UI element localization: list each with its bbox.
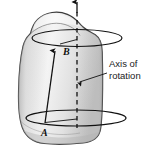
- figure-canvas: B A Axis of rotation: [0, 0, 154, 154]
- point-label-b: B: [62, 46, 70, 57]
- rotation-axis-figure: B A Axis of rotation: [0, 0, 154, 154]
- rigid-body-solid: [14, 8, 108, 150]
- point-label-a: A: [40, 127, 48, 138]
- axis-label-line-2: rotation: [109, 70, 141, 81]
- axis-label-line-1: Axis of: [109, 58, 138, 69]
